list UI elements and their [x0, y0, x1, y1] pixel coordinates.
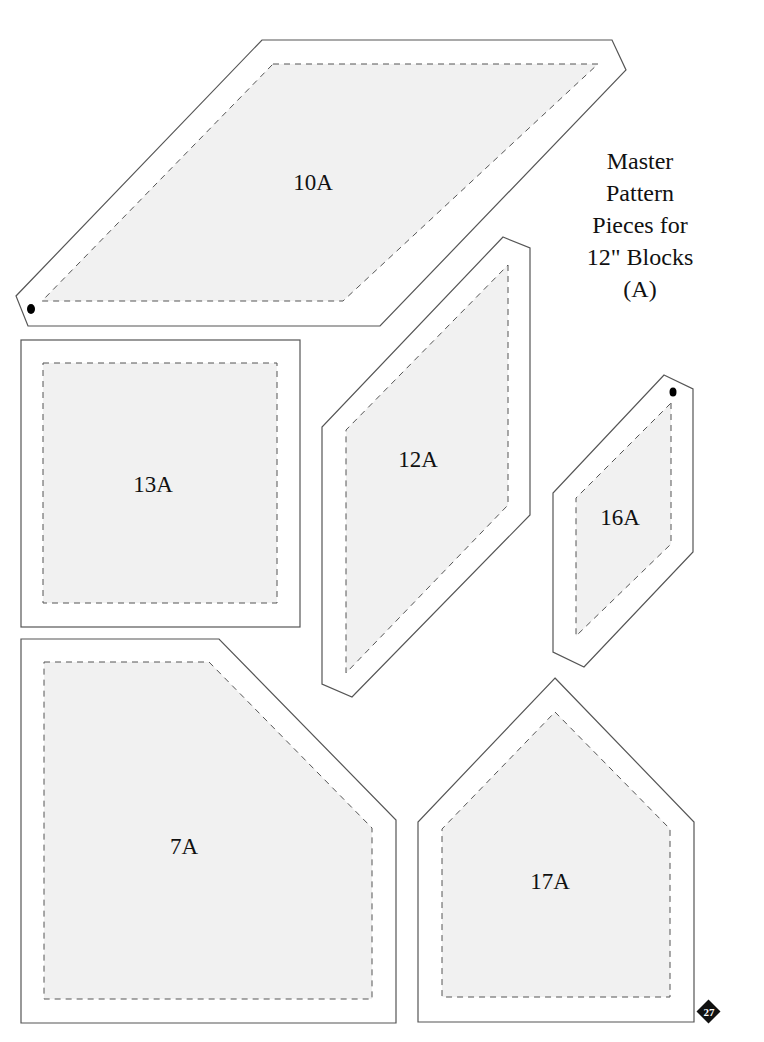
piece-13A: 13A — [21, 340, 300, 627]
page-number-badge: 27 — [697, 1000, 721, 1024]
page-number: 27 — [697, 1000, 721, 1024]
title-line: Pieces for — [560, 209, 720, 241]
title-line: 12" Blocks — [560, 241, 720, 273]
piece-7A-label: 7A — [170, 834, 199, 859]
piece-17A: 17A — [418, 678, 694, 1022]
piece-17A-sew-line — [442, 712, 670, 997]
piece-13A-label: 13A — [133, 472, 173, 497]
piece-7A-sew-line — [44, 662, 372, 999]
piece-16A-match-dot — [670, 388, 677, 397]
piece-17A-label: 17A — [530, 869, 570, 894]
title-line: (A) — [560, 273, 720, 305]
title-line: Pattern — [560, 177, 720, 209]
pattern-page: 10A 13A 12A 16A 7A — [0, 0, 764, 1042]
piece-10A-label: 10A — [293, 170, 333, 195]
title-line: Master — [560, 145, 720, 177]
piece-10A-match-dot — [27, 304, 35, 314]
piece-16A: 16A — [553, 375, 693, 667]
page-title: Master Pattern Pieces for 12" Blocks (A) — [560, 145, 720, 305]
piece-16A-label: 16A — [600, 505, 640, 530]
piece-10A: 10A — [16, 40, 626, 326]
piece-7A: 7A — [21, 639, 396, 1023]
piece-12A-label: 12A — [398, 447, 438, 472]
